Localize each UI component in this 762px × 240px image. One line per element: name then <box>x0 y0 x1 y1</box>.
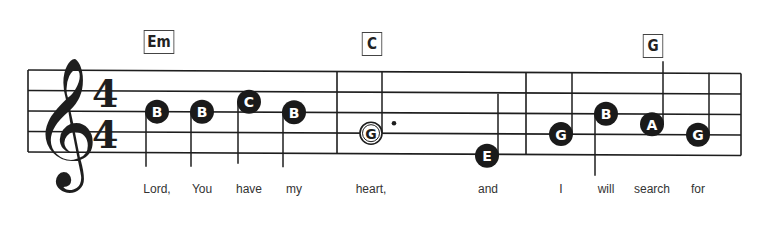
note-g: G <box>686 123 710 147</box>
staff-line <box>28 70 741 74</box>
staff-lines <box>28 70 741 156</box>
note-b: B <box>145 100 169 124</box>
note-b: B <box>594 102 618 126</box>
note-stems <box>146 61 709 176</box>
duration-dot <box>392 121 397 126</box>
note-e: E <box>475 144 499 168</box>
note-a: A <box>640 112 664 136</box>
time-signature-top: 4 <box>92 71 118 116</box>
staff-line <box>28 152 741 156</box>
note-letter: A <box>647 117 658 133</box>
treble-clef-icon: 𝄞 <box>32 56 98 193</box>
note-letter: G <box>365 126 377 142</box>
note-g: G <box>549 122 573 146</box>
lyric-word: my <box>286 182 302 196</box>
note-letter: G <box>692 127 704 143</box>
chord-symbol-em: Em <box>144 30 175 54</box>
time-signature: 4 4 <box>92 71 118 157</box>
lyric-word: for <box>691 182 705 196</box>
lyric-word: have <box>236 182 262 196</box>
lyric-word: search <box>634 182 670 196</box>
staff-line <box>28 91 741 95</box>
lyric-word: heart, <box>356 182 387 196</box>
chord-symbol-c: C <box>362 32 382 56</box>
chord-symbol-g: G <box>643 34 663 58</box>
note-letter: B <box>289 105 300 121</box>
lyric-word: and <box>478 182 498 196</box>
note-c: C <box>237 90 261 114</box>
lyric-word: I <box>559 182 562 196</box>
lyric-word: Lord, <box>143 182 170 196</box>
lyric-word: will <box>598 182 615 196</box>
notes: BBCBGEGBAG <box>145 90 710 168</box>
svg-text:𝄞: 𝄞 <box>32 56 98 193</box>
note-b: B <box>282 100 306 124</box>
time-signature-bottom: 4 <box>92 112 118 157</box>
lyric-word: You <box>192 182 212 196</box>
note-letter: B <box>152 104 163 120</box>
note-b: B <box>190 100 214 124</box>
note-letter: C <box>244 94 254 110</box>
note-letter: E <box>482 148 492 164</box>
staff-line <box>28 111 741 115</box>
note-letter: G <box>555 127 567 143</box>
staff-line <box>28 132 741 136</box>
note-letter: B <box>197 104 208 120</box>
note-letter: B <box>601 106 612 122</box>
